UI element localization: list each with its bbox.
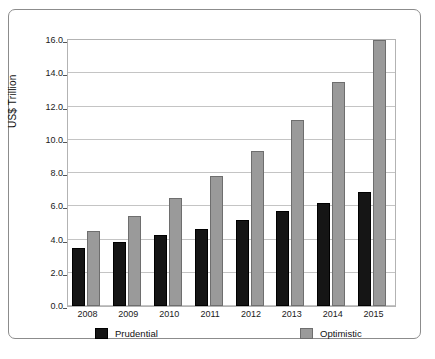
chart-figure: US$ Trillion 16.014.012.010.08.06.04.02.… bbox=[8, 9, 421, 339]
x-tick-label-2013: 2013 bbox=[272, 310, 312, 319]
bar-optimistic-2010[interactable] bbox=[169, 198, 182, 306]
y-tick-label: 14.0 bbox=[45, 69, 63, 78]
bar-group bbox=[354, 40, 395, 306]
bar-optimistic-2014[interactable] bbox=[332, 82, 345, 306]
y-tick-label: 12.0 bbox=[45, 103, 63, 112]
plot-wrapper bbox=[67, 31, 396, 306]
x-tick-label-2011: 2011 bbox=[190, 310, 230, 319]
bar-prudential-2015[interactable] bbox=[358, 192, 371, 306]
bar-group bbox=[68, 40, 109, 306]
x-tick-label-2010: 2010 bbox=[149, 310, 189, 319]
bar-group bbox=[109, 40, 150, 306]
legend-entry-optimistic[interactable]: Optimistic bbox=[300, 328, 362, 339]
bar-optimistic-2011[interactable] bbox=[210, 176, 223, 306]
bar-prudential-2014[interactable] bbox=[317, 203, 330, 306]
bar-group bbox=[313, 40, 354, 306]
y-axis-title: US$ Trillion bbox=[7, 18, 18, 128]
bar-group bbox=[191, 40, 232, 306]
bar-optimistic-2013[interactable] bbox=[291, 120, 304, 306]
y-tick-label: 4.0 bbox=[50, 236, 63, 245]
x-tick-label-2012: 2012 bbox=[231, 310, 271, 319]
x-tick-label-2014: 2014 bbox=[313, 310, 353, 319]
legend-label-prudential: Prudential bbox=[115, 328, 158, 339]
y-tick-label: 0.0 bbox=[50, 302, 63, 311]
x-tick-label-2009: 2009 bbox=[108, 310, 148, 319]
bar-prudential-2010[interactable] bbox=[154, 235, 167, 306]
y-tick-mark bbox=[63, 308, 67, 309]
y-tick-label: 10.0 bbox=[45, 136, 63, 145]
chart-legend: Prudential Optimistic bbox=[67, 328, 396, 344]
legend-entry-prudential[interactable]: Prudential bbox=[95, 328, 158, 339]
bar-prudential-2011[interactable] bbox=[195, 229, 208, 306]
legend-label-optimistic: Optimistic bbox=[320, 328, 362, 339]
y-tick-label: 8.0 bbox=[50, 169, 63, 178]
bar-prudential-2009[interactable] bbox=[113, 242, 126, 306]
bar-prudential-2013[interactable] bbox=[276, 211, 289, 306]
bar-optimistic-2009[interactable] bbox=[128, 216, 141, 306]
legend-swatch-prudential-icon bbox=[95, 328, 108, 339]
y-tick-label: 2.0 bbox=[50, 269, 63, 278]
x-axis-tick-labels: 20082009201020112012201320142015 bbox=[67, 310, 396, 326]
bar-group bbox=[272, 40, 313, 306]
bar-optimistic-2008[interactable] bbox=[87, 231, 100, 306]
x-tick-label-2008: 2008 bbox=[67, 310, 107, 319]
plot-area bbox=[67, 39, 396, 307]
y-tick-label: 16.0 bbox=[45, 36, 63, 45]
bar-optimistic-2012[interactable] bbox=[251, 151, 264, 306]
y-axis-tick-labels: 16.014.012.010.08.06.04.02.00.0 bbox=[29, 31, 63, 314]
bar-group bbox=[232, 40, 273, 306]
bar-prudential-2008[interactable] bbox=[72, 248, 85, 306]
y-tick-label: 6.0 bbox=[50, 202, 63, 211]
x-tick-label-2015: 2015 bbox=[354, 310, 394, 319]
bar-optimistic-2015[interactable] bbox=[373, 40, 386, 306]
bar-prudential-2012[interactable] bbox=[236, 220, 249, 306]
bar-group bbox=[150, 40, 191, 306]
legend-swatch-optimistic-icon bbox=[300, 328, 313, 339]
